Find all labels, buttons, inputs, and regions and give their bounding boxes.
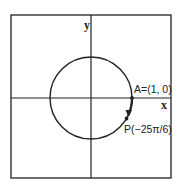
point-a-label: A=(1, 0) xyxy=(134,83,172,95)
unit-circle-diagram: y x A=(1, 0) P(−25π/6) xyxy=(0,0,179,186)
x-axis-label: x xyxy=(161,98,167,112)
point-p-label: P(−25π/6) xyxy=(124,123,172,135)
point-a-marker xyxy=(130,96,134,100)
y-axis-label: y xyxy=(84,18,90,32)
arrowhead-icon xyxy=(126,110,133,117)
point-p-marker xyxy=(125,117,129,121)
